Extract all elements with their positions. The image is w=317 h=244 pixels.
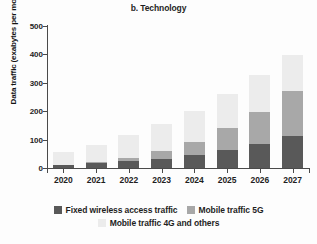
bar-segment xyxy=(118,161,139,168)
x-tick-mark xyxy=(47,169,48,173)
bar-segment xyxy=(53,165,74,168)
x-tick-label: 2027 xyxy=(283,175,302,185)
bar-segment xyxy=(282,136,303,168)
x-tick-label: 2025 xyxy=(218,175,237,185)
bar-2025[interactable] xyxy=(217,94,238,168)
legend-label-fwa: Fixed wireless access traffic xyxy=(66,205,178,215)
legend-row-primary: Fixed wireless access traffic Mobile tra… xyxy=(0,205,317,215)
y-axis-label: Data traffic (exabytes per month) xyxy=(9,0,18,120)
y-axis-tick-labels: 0100200300400500 xyxy=(20,26,43,168)
chart-title: b. Technology xyxy=(0,3,317,13)
bar-segment xyxy=(184,111,205,142)
x-tick-label: 2023 xyxy=(152,175,171,185)
bar-2022[interactable] xyxy=(118,135,139,168)
bar-2026[interactable] xyxy=(249,75,270,168)
y-tick-label: 300 xyxy=(30,78,43,87)
bar-segment xyxy=(86,163,107,168)
bar-2024[interactable] xyxy=(184,111,205,168)
legend-swatch-icon-fwa xyxy=(54,206,62,214)
bar-segment xyxy=(249,112,270,144)
bar-segment xyxy=(151,151,172,160)
legend-item-mobile-traffic-5g[interactable]: Mobile traffic 5G xyxy=(187,205,264,215)
legend-row-secondary: Mobile traffic 4G and others xyxy=(0,218,317,228)
bar-segment xyxy=(53,152,74,165)
x-tick-label: 2024 xyxy=(185,175,204,185)
bar-2027[interactable] xyxy=(282,55,303,168)
legend-label-5g: Mobile traffic 5G xyxy=(199,205,264,215)
x-tick-mark xyxy=(162,169,163,173)
x-tick-label: 2020 xyxy=(54,175,73,185)
legend-item-mobile-traffic-4g-and-others[interactable]: Mobile traffic 4G and others xyxy=(98,218,220,228)
bar-segment xyxy=(118,135,139,158)
x-tick-mark xyxy=(96,169,97,173)
y-tick-label: 500 xyxy=(30,22,43,31)
bar-segment xyxy=(184,142,205,156)
bar-segment xyxy=(151,159,172,168)
bar-segment xyxy=(151,124,172,150)
y-tick-label: 200 xyxy=(30,107,43,116)
bar-segment xyxy=(249,75,270,111)
x-tick-label: 2021 xyxy=(87,175,106,185)
x-tick-label: 2026 xyxy=(250,175,269,185)
x-tick-mark xyxy=(63,169,64,173)
y-tick-label: 100 xyxy=(30,135,43,144)
legend-item-fixed-wireless-access-traffic[interactable]: Fixed wireless access traffic xyxy=(54,205,178,215)
bar-2021[interactable] xyxy=(86,145,107,168)
bar-2023[interactable] xyxy=(151,124,172,168)
x-tick-mark xyxy=(129,169,130,173)
bar-segment xyxy=(282,55,303,91)
x-tick-label: 2022 xyxy=(119,175,138,185)
bar-segment xyxy=(249,144,270,168)
bar-segment xyxy=(217,150,238,168)
bar-segment xyxy=(86,145,107,162)
bar-segment xyxy=(282,91,303,136)
plot-area xyxy=(47,26,309,168)
x-tick-mark xyxy=(260,169,261,173)
bar-segment xyxy=(184,155,205,168)
bar-segment xyxy=(217,94,238,128)
legend-label-4g: Mobile traffic 4G and others xyxy=(110,218,220,228)
x-axis-ticks xyxy=(47,169,310,174)
bar-segment xyxy=(217,128,238,150)
x-tick-mark xyxy=(293,169,294,173)
x-tick-mark xyxy=(227,169,228,173)
x-axis-tick-labels: 20202021202220232024202520262027 xyxy=(47,175,310,189)
y-tick-label: 400 xyxy=(30,50,43,59)
legend-swatch-icon-4g xyxy=(98,219,106,227)
legend-swatch-icon-5g xyxy=(187,206,195,214)
chart-legend: Fixed wireless access traffic Mobile tra… xyxy=(0,205,317,231)
x-tick-mark xyxy=(309,169,310,173)
x-tick-mark xyxy=(194,169,195,173)
chart-figure: b. Technology Data traffic (exabytes per… xyxy=(0,0,317,244)
bar-2020[interactable] xyxy=(53,152,74,168)
